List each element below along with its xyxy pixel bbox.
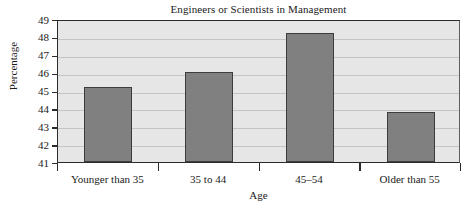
- y-tick-label: 44: [9, 104, 49, 115]
- bars-group: [58, 21, 459, 162]
- plot-area: [57, 20, 460, 163]
- chart-title: Engineers or Scientists in Management: [57, 2, 460, 16]
- x-axis-label: Age: [57, 189, 460, 202]
- bar: [387, 112, 435, 162]
- bar: [286, 33, 334, 162]
- x-tick-mark: [359, 163, 360, 171]
- y-tick-mark: [52, 74, 57, 75]
- bar: [185, 72, 233, 162]
- y-tick-mark: [52, 56, 57, 57]
- x-tick-label: 45–54: [259, 173, 360, 186]
- x-tick-mark: [57, 163, 58, 171]
- x-tick-mark: [259, 163, 260, 171]
- x-tick-mark: [158, 163, 159, 171]
- y-tick-label: 41: [9, 158, 49, 169]
- y-tick-label: 46: [9, 68, 49, 79]
- y-tick-mark: [52, 145, 57, 146]
- y-tick-label: 47: [9, 50, 49, 61]
- bar-chart-figure: Engineers or Scientists in Management Pe…: [0, 0, 472, 214]
- y-tick-label: 49: [9, 15, 49, 26]
- x-tick-mark: [460, 163, 461, 171]
- bar: [84, 87, 132, 162]
- x-tick-label: Younger than 35: [57, 173, 158, 186]
- y-tick-mark: [52, 20, 57, 21]
- y-tick-label: 42: [9, 140, 49, 151]
- y-tick-label: 45: [9, 86, 49, 97]
- x-tick-label: 35 to 44: [158, 173, 259, 186]
- y-tick-label: 43: [9, 122, 49, 133]
- y-tick-label: 48: [9, 32, 49, 43]
- y-tick-mark: [52, 127, 57, 128]
- y-tick-mark: [52, 92, 57, 93]
- y-tick-mark: [52, 38, 57, 39]
- y-tick-mark: [52, 109, 57, 110]
- x-tick-label: Older than 55: [359, 173, 460, 186]
